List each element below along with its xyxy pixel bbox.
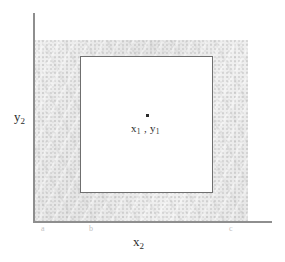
x-axis-label-sub: 2	[140, 241, 145, 251]
center-point-marker	[146, 114, 149, 117]
x-axis-line	[33, 221, 272, 223]
x-axis-label-text: x	[133, 234, 140, 249]
y-axis-line	[33, 13, 35, 223]
y-axis-label-text: y	[14, 109, 21, 124]
x-tick-label-b: b	[89, 224, 93, 233]
x-axis-label: x2	[133, 234, 144, 250]
y-axis-label-sub: 2	[21, 116, 26, 126]
center-point-label: x1 , y1	[131, 122, 160, 134]
x-tick-label-a: a	[41, 224, 45, 233]
center-label-x: x	[131, 122, 137, 134]
center-label-separator: ,	[141, 122, 150, 134]
region-diagram: x1 , y1 y2 x2 a b c	[0, 0, 285, 262]
center-label-y: y	[150, 122, 156, 134]
center-label-y-sub: 1	[156, 127, 160, 136]
y-axis-label: y2	[14, 109, 25, 125]
x-tick-label-c: c	[229, 224, 233, 233]
center-label-x-sub: 1	[137, 127, 141, 136]
